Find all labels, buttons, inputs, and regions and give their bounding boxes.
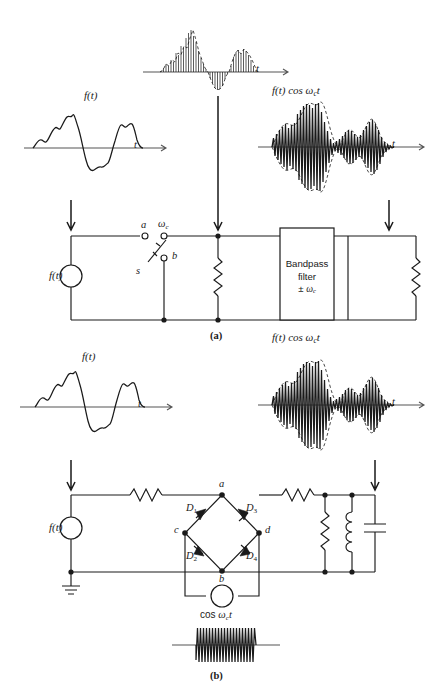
plot-baseband-ft-bottom-left <box>20 372 172 432</box>
filter-line-1: Bandpass <box>283 258 331 271</box>
label-carrier-source: cos ωct <box>200 610 232 622</box>
arrow-modulated-a <box>214 96 222 230</box>
arrow-output-a <box>385 200 393 230</box>
axis-label-t-bottom-left: t <box>138 399 141 410</box>
label-bridge-node-b: b <box>219 574 224 585</box>
bandpass-filter-box-text: Bandpass filter ± ωc <box>283 258 331 296</box>
label-switch-pole-s: s <box>136 266 140 277</box>
caption-a: (a) <box>210 331 222 342</box>
circuit-switching-modulator <box>60 228 420 323</box>
axis-label-t-top-right: t <box>392 139 395 150</box>
label-bridge-node-a: a <box>219 479 224 490</box>
label-bridge-node-d: d <box>265 525 270 536</box>
caption-b: (b) <box>210 671 223 682</box>
axis-label-t-top-left: t <box>134 140 137 151</box>
arrow-input-b <box>67 460 75 490</box>
filter-line-2: filter <box>283 271 331 284</box>
axis-label-t-top-middle: t <box>256 64 259 75</box>
label-modulated-signal-top: f(t) cos ωct <box>272 85 320 97</box>
arrow-output-b <box>371 460 379 490</box>
label-diode-d2: D2 <box>186 551 197 563</box>
label-switch-carrier-omega: ωc <box>158 219 169 231</box>
plot-carrier-burst-bottom <box>172 628 280 662</box>
plot-am-signal-bottom-right <box>258 360 424 450</box>
label-diode-d3: D3 <box>246 503 257 515</box>
label-diode-d4: D4 <box>246 551 257 563</box>
circuit-ring-modulator <box>60 489 386 607</box>
label-modulated-output-a: f(t) cos ωct <box>272 332 320 344</box>
plot-baseband-ft-top-left <box>24 115 166 171</box>
figure-am-modulators: t f(t) cos ωct f(t) t t f(t) a ωc s b Ba… <box>0 0 431 693</box>
filter-line-3: ± ωc <box>283 283 331 296</box>
label-ft-top-left: f(t) <box>84 90 97 101</box>
figure-lineart <box>0 0 431 693</box>
label-diode-d1: D1 <box>186 503 197 515</box>
plot-sampled-modulated-signal <box>143 30 288 90</box>
arrow-input-a <box>67 200 75 230</box>
axis-label-t-bottom-right: t <box>392 397 395 408</box>
label-switch-terminal-a: a <box>141 220 146 231</box>
label-source-ft-a: f(t) <box>49 270 62 281</box>
label-source-ft-b: f(t) <box>49 522 62 533</box>
label-bridge-node-c: c <box>174 525 179 536</box>
label-ft-bottom-left: f(t) <box>82 351 95 362</box>
label-switch-terminal-b: b <box>172 251 177 262</box>
plot-am-signal-top-right <box>258 102 424 192</box>
